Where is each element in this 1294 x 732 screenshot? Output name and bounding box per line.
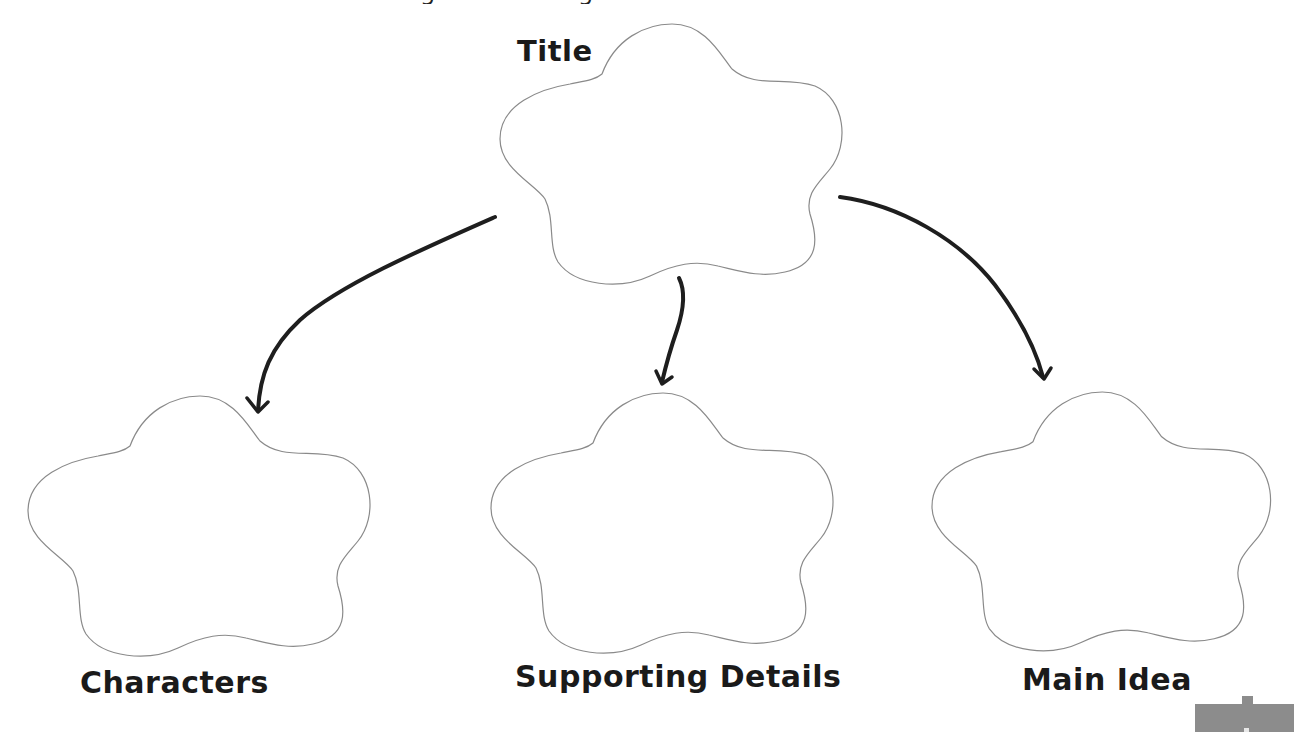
cloud-main-idea [932, 392, 1271, 651]
cloud-characters [28, 396, 370, 656]
label-title: Title [517, 37, 593, 66]
arrow-title-to-main-idea [840, 197, 1051, 379]
clipped-header-text: g g [380, 0, 920, 4]
arrow-title-to-characters [247, 217, 495, 412]
diagram-canvas [0, 0, 1294, 732]
label-supporting-details: Supporting Details [515, 662, 841, 692]
label-characters: Characters [80, 668, 269, 698]
cloud-supporting-details [491, 393, 833, 653]
corner-tab-mark [1244, 728, 1249, 732]
arrow-title-to-supporting-details [656, 278, 683, 384]
label-main-idea: Main Idea [1022, 665, 1192, 695]
